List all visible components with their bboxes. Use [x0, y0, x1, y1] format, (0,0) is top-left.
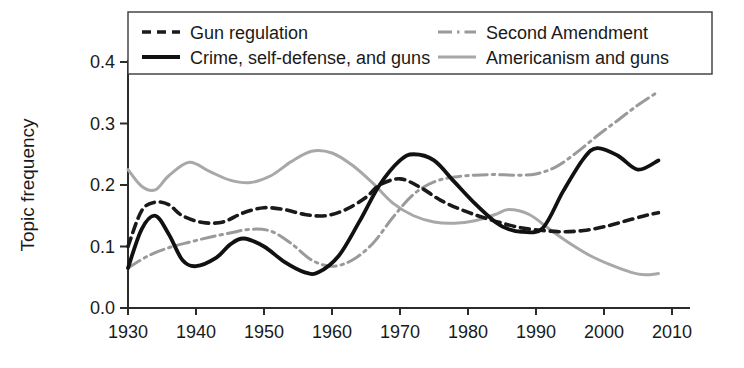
y-axis-title: Topic frequency	[17, 118, 38, 252]
legend-label-gun-regulation: Gun regulation	[190, 23, 308, 43]
x-tick-label-1940: 1940	[176, 322, 216, 342]
legend-label-americanism-and-guns: Americanism and guns	[486, 48, 669, 68]
x-tick-label-1970: 1970	[380, 322, 420, 342]
y-tick-label-0.2: 0.2	[90, 175, 115, 195]
chart-axes	[128, 60, 690, 308]
y-tick-label-0.3: 0.3	[90, 114, 115, 134]
x-tick-label-1960: 1960	[312, 322, 352, 342]
x-tick-label-1930: 1930	[108, 322, 148, 342]
x-tick-label-2000: 2000	[584, 322, 624, 342]
x-tick-label-1980: 1980	[448, 322, 488, 342]
series-line-second-amendment	[128, 92, 658, 269]
legend-label-second-amendment: Second Amendment	[486, 23, 648, 43]
series-line-crime-self-defense-and-guns	[128, 148, 658, 274]
y-tick-label-0.1: 0.1	[90, 237, 115, 257]
x-tick-label-1950: 1950	[244, 322, 284, 342]
x-tick-label-2010: 2010	[652, 322, 692, 342]
y-tick-label-0.4: 0.4	[90, 52, 115, 72]
x-tick-label-1990: 1990	[516, 322, 556, 342]
topic-frequency-line-chart: 0.00.10.20.30.41930194019501960197019801…	[0, 0, 744, 368]
y-tick-label-0.0: 0.0	[90, 298, 115, 318]
chart-figure: 0.00.10.20.30.41930194019501960197019801…	[0, 0, 744, 368]
legend-label-crime-self-defense-and-guns: Crime, self-defense, and guns	[190, 48, 430, 68]
